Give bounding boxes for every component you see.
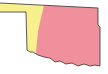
oklahoma-map <box>0 0 108 74</box>
